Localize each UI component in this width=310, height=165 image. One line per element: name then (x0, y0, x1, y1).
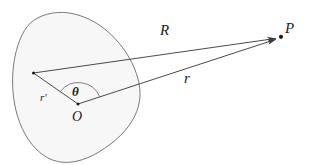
vector-r-prime-label: r′ (40, 92, 47, 103)
source-point-dot (32, 72, 35, 75)
origin-label: O (72, 110, 82, 124)
origin-point-dot (77, 103, 80, 106)
field-point-dot (279, 35, 283, 39)
figure-canvas (0, 0, 310, 165)
angle-theta-label: θ (72, 85, 79, 98)
vector-R-label: R (160, 23, 169, 38)
vector-r-label: r (184, 71, 190, 86)
vector-geometry-figure: R r r′ θ O P (0, 0, 310, 165)
field-point-label: P (285, 21, 294, 36)
